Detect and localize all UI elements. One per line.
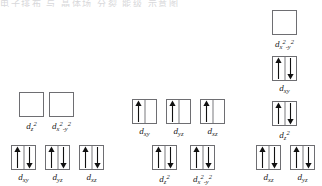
orbital-label-dxy: dxy — [139, 126, 149, 139]
orbital-box-dx2-y2 — [190, 145, 215, 170]
spin-up-arrow-icon — [81, 146, 90, 169]
spin-down-arrow-icon — [204, 146, 213, 169]
orbital-dyz: dyz — [45, 145, 70, 170]
orbital-dxy: dxy — [132, 99, 157, 124]
orbital-label-dxy: dxy — [279, 83, 289, 96]
orbital-box-dz2 — [152, 145, 177, 170]
orbital-label-dyz: dyz — [53, 172, 63, 185]
top-cutoff-text: 电子排布 与 晶体场 分裂 能级 示意图 — [0, 0, 200, 7]
orbital-box-dxy — [11, 145, 36, 170]
orbital-dxz: dxz — [79, 145, 104, 170]
orbital-label-dx2-y2: dx2-y2 — [193, 172, 212, 186]
orbital-label-dyz: dyz — [298, 172, 308, 185]
orbital-dyz: dyz — [290, 145, 315, 170]
spin-up-arrow-icon — [274, 102, 283, 125]
orbital-box-dxz — [200, 99, 225, 124]
orbital-dxy: dxy — [11, 145, 36, 170]
spin-up-arrow-icon — [292, 146, 301, 169]
spin-up-arrow-icon — [168, 100, 177, 123]
orbital-label-dz2: dz2 — [26, 119, 36, 134]
orbital-dxz: dxz — [256, 145, 281, 170]
spin-up-arrow-icon — [202, 100, 211, 123]
orbital-box-dxy — [272, 56, 297, 81]
spin-down-arrow-icon — [166, 146, 175, 169]
orbital-dx2-y2: dx2-y2 — [272, 10, 297, 35]
spin-up-arrow-icon — [274, 57, 283, 80]
orbital-box-dz2 — [19, 92, 44, 117]
orbital-label-dxy: dxy — [18, 172, 28, 185]
spin-down-arrow-icon — [286, 102, 295, 125]
orbital-dz2: dz2 — [152, 145, 177, 170]
orbital-label-dx2-y2: dx2-y2 — [52, 119, 71, 134]
orbital-label-dyz: dyz — [174, 126, 184, 139]
orbital-box-dx2-y2 — [49, 92, 74, 117]
orbital-dz2: dz2 — [19, 92, 44, 117]
orbital-label-dxz: dxz — [87, 172, 97, 185]
orbital-dyz: dyz — [166, 99, 191, 124]
orbital-dxz: dxz — [200, 99, 225, 124]
orbital-label-dx2-y2: dx2-y2 — [275, 37, 294, 52]
spin-down-arrow-icon — [270, 146, 279, 169]
orbital-label-dxz: dxz — [208, 126, 218, 139]
spin-down-arrow-icon — [59, 146, 68, 169]
orbital-box-dxy — [132, 99, 157, 124]
orbital-dz2: dz2 — [272, 101, 297, 126]
orbital-dx2-y2: dx2-y2 — [190, 145, 215, 170]
spin-down-arrow-icon — [25, 146, 34, 169]
spin-up-arrow-icon — [258, 146, 267, 169]
spin-up-arrow-icon — [134, 100, 143, 123]
orbital-box-dyz — [166, 99, 191, 124]
orbital-label-dxz: dxz — [264, 172, 274, 185]
orbital-label-dz2: dz2 — [279, 128, 289, 143]
orbital-label-dz2: dz2 — [159, 172, 169, 186]
diagram-canvas: 电子排布 与 晶体场 分裂 能级 示意图 dz2dx2-y2dxydyzdxzd… — [0, 0, 322, 186]
orbital-box-dxz — [256, 145, 281, 170]
spin-up-arrow-icon — [192, 146, 201, 169]
spin-up-arrow-icon — [47, 146, 56, 169]
spin-up-arrow-icon — [154, 146, 163, 169]
spin-up-arrow-icon — [13, 146, 22, 169]
spin-down-arrow-icon — [93, 146, 102, 169]
orbital-box-dx2-y2 — [272, 10, 297, 35]
spin-down-arrow-icon — [304, 146, 313, 169]
orbital-box-dyz — [45, 145, 70, 170]
orbital-dxy: dxy — [272, 56, 297, 81]
spin-down-arrow-icon — [286, 57, 295, 80]
orbital-box-dz2 — [272, 101, 297, 126]
orbital-dx2-y2: dx2-y2 — [49, 92, 74, 117]
orbital-box-dxz — [79, 145, 104, 170]
orbital-box-dyz — [290, 145, 315, 170]
